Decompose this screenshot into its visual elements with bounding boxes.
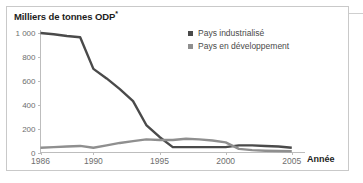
legend-item-pays-en-developpement: Pays en développement <box>188 41 289 51</box>
chart-figure: Milliers de tonnes ODP* 02004006008001 0… <box>0 0 363 183</box>
x-axis-title: Année <box>307 154 335 164</box>
legend-item-pays-industrialise: Pays industrialisé <box>188 28 289 38</box>
x-axis-tick-label: 1995 <box>150 156 169 166</box>
x-axis-tick-group: 19861990199520002005 <box>31 152 301 166</box>
y-axis-tick-label: 400 <box>22 101 36 110</box>
chart-legend: Pays industrialisé Pays en développement <box>188 28 289 51</box>
legend-swatch-icon <box>188 44 193 49</box>
x-axis-tick-label: 2000 <box>216 156 235 166</box>
y-axis-tick-label: 800 <box>22 53 36 62</box>
x-axis-tick-label: 1986 <box>31 156 50 166</box>
y-axis-tick-label: 600 <box>22 77 36 86</box>
x-axis-tick-label: 2005 <box>282 156 301 166</box>
legend-swatch-icon <box>188 31 193 36</box>
y-axis-tick-group: 02004006008001 000 <box>15 29 41 158</box>
y-axis-tick-label: 1 000 <box>15 29 36 38</box>
y-axis-tick-label: 200 <box>22 125 36 134</box>
x-axis-tick-label: 1990 <box>84 156 103 166</box>
legend-item-label: Pays industrialisé <box>198 28 264 38</box>
legend-item-label: Pays en développement <box>198 41 289 51</box>
